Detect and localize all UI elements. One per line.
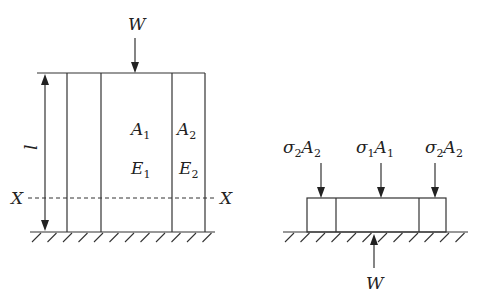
hatch-mark	[378, 233, 387, 242]
hatch-mark	[48, 233, 57, 242]
hatch-mark	[110, 233, 119, 242]
hatch-mark	[94, 233, 103, 242]
diagram-canvas: W l X X A1 A2 E1 E2 σ2A2 σ1A1 σ2A2	[0, 0, 481, 304]
force-arrowhead-center-icon	[377, 187, 385, 198]
hatch-mark	[156, 233, 165, 242]
force-arrowhead-right-icon	[431, 187, 439, 198]
hatch-mark	[32, 233, 41, 242]
load-label: W	[128, 14, 147, 34]
hatch-mark	[347, 233, 356, 242]
section-label-right: X	[218, 188, 233, 208]
hatch-mark	[79, 233, 88, 242]
hatch-mark	[409, 233, 418, 242]
hatch-mark	[456, 233, 465, 242]
reaction-label: W	[366, 273, 385, 293]
hatch-mark	[332, 233, 341, 242]
inner-area-label: A1	[129, 119, 150, 142]
hatch-mark	[125, 233, 134, 242]
hatch-mark	[394, 233, 403, 242]
inner-modulus-label: E1	[130, 158, 150, 181]
hatch-mark	[63, 233, 72, 242]
hatch-mark	[285, 233, 294, 242]
ground-hatch-left	[32, 233, 212, 242]
hatch-mark	[301, 233, 310, 242]
outer-modulus-label: E2	[178, 158, 198, 181]
hatch-mark	[172, 233, 181, 242]
hatch-mark	[440, 233, 449, 242]
force-label-center: σ1A1	[356, 137, 394, 160]
free-body-block	[307, 198, 446, 232]
load-arrowhead-icon	[131, 62, 139, 73]
length-label: l	[21, 145, 41, 150]
hatch-mark	[141, 233, 150, 242]
outer-area-label: A2	[175, 119, 196, 142]
hatch-mark	[363, 233, 372, 242]
hatch-mark	[316, 233, 325, 242]
reaction-arrowhead-icon	[370, 234, 378, 245]
hatch-mark	[203, 233, 212, 242]
force-label-right: σ2A2	[425, 137, 463, 160]
hatch-mark	[187, 233, 196, 242]
diagram-svg: W l X X A1 A2 E1 E2 σ2A2 σ1A1 σ2A2	[0, 0, 481, 304]
hatch-mark	[425, 233, 434, 242]
force-arrowhead-left-icon	[317, 187, 325, 198]
section-label-left: X	[9, 188, 24, 208]
length-arrow-up-icon	[41, 74, 49, 85]
right-figure: σ2A2 σ1A1 σ2A2 W	[283, 137, 468, 293]
force-label-left: σ2A2	[283, 137, 321, 160]
left-figure: W l X X A1 A2 E1 E2	[9, 14, 233, 242]
length-arrow-down-icon	[41, 220, 49, 231]
